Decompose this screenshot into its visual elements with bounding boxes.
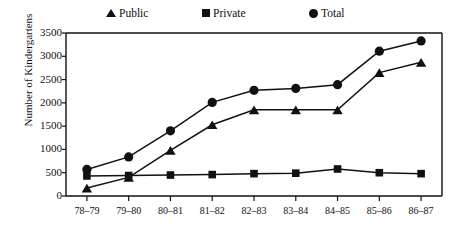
data-point-private [292,169,300,177]
data-point-total [82,165,91,174]
data-point-private [208,171,216,179]
series-line-total [87,41,421,170]
data-point-private [376,169,384,177]
data-point-total [375,47,384,56]
data-point-total [249,86,258,95]
series-line-public [87,62,421,188]
data-point-public [207,120,217,129]
data-point-total [124,152,133,161]
plot-area [0,0,453,228]
data-point-public [82,184,92,193]
data-point-total [417,36,426,45]
data-point-public [416,58,426,67]
data-point-total [333,80,342,89]
data-point-public [374,68,384,77]
data-point-total [291,84,300,93]
data-point-private [250,170,258,178]
kindergarten-line-chart: Public Private Total Number of Kindergar… [0,0,453,228]
data-point-private [167,171,175,179]
data-point-private [334,165,342,173]
data-point-total [208,98,217,107]
data-point-private [417,170,425,178]
data-point-private [125,172,133,180]
data-point-total [166,126,175,135]
